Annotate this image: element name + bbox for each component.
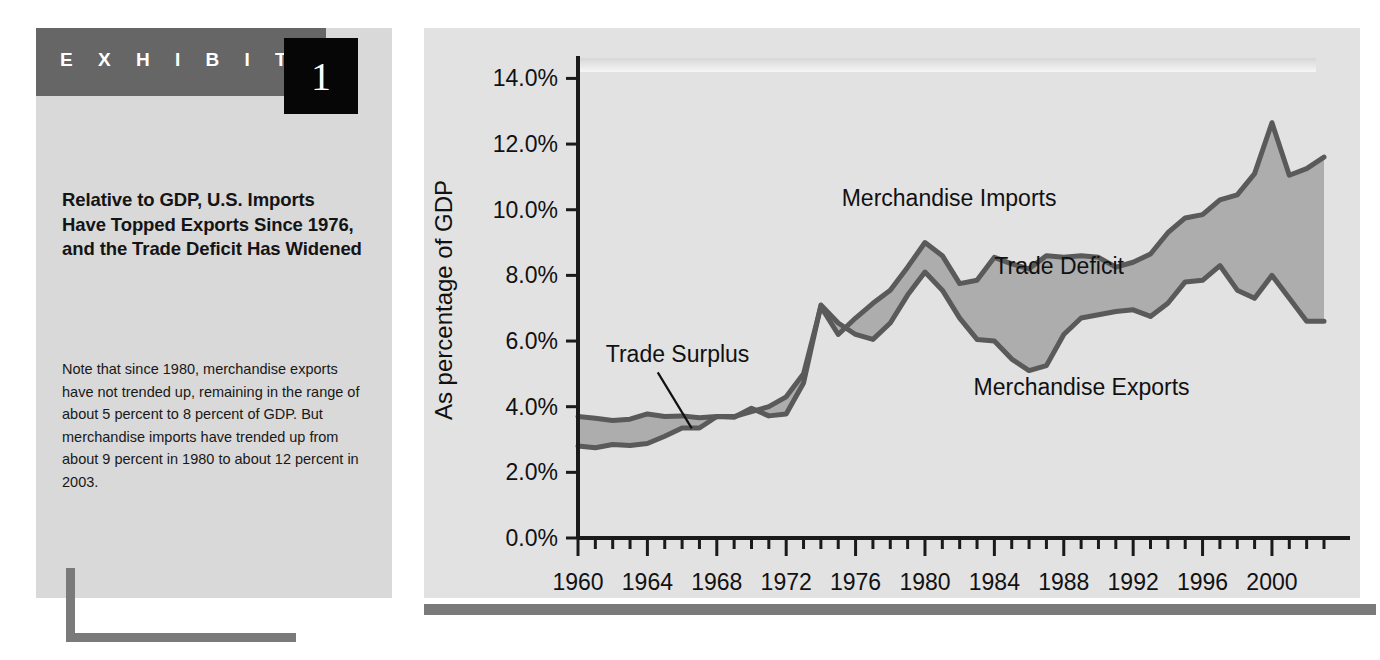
y-tick-label: 2.0% (506, 459, 558, 485)
y-tick-label: 12.0% (493, 131, 558, 157)
x-tick-label: 1968 (691, 569, 742, 595)
y-tick-label: 8.0% (506, 262, 558, 288)
x-tick-label: 1980 (899, 569, 950, 595)
chart-container: 0.0%2.0%4.0%6.0%8.0%10.0%12.0%14.0%19601… (404, 0, 1380, 660)
exhibit-note: Note that since 1980, merchandise export… (62, 358, 367, 494)
x-tick-label: 1996 (1177, 569, 1228, 595)
x-tick-label: 1964 (622, 569, 673, 595)
x-tick-label: 2000 (1246, 569, 1297, 595)
y-tick-label: 6.0% (506, 328, 558, 354)
x-tick-label: 1960 (552, 569, 603, 595)
exhibit-page: E X H I B I T 1 Relative to GDP, U.S. Im… (0, 0, 1380, 660)
exhibit-label: E X H I B I T (60, 49, 297, 71)
annotation-merchandise-imports: Merchandise Imports (842, 185, 1057, 211)
corner-rule-horizontal (66, 633, 296, 642)
exhibit-number: 1 (284, 38, 358, 114)
corner-rule-vertical (66, 568, 75, 642)
exhibit-headline: Relative to GDP, U.S. Imports Have Toppe… (62, 188, 362, 262)
y-tick-label: 10.0% (493, 197, 558, 223)
x-tick-label: 1972 (761, 569, 812, 595)
exhibit-sidebar: E X H I B I T 1 Relative to GDP, U.S. Im… (36, 28, 392, 608)
trade-area-chart: 0.0%2.0%4.0%6.0%8.0%10.0%12.0%14.0%19601… (404, 0, 1380, 660)
y-tick-label: 0.0% (506, 525, 558, 551)
x-tick-label: 1984 (969, 569, 1020, 595)
y-tick-label: 4.0% (506, 394, 558, 420)
trade-gap-band (578, 123, 1324, 448)
annotation-trade-deficit: Trade Deficit (994, 253, 1124, 279)
x-tick-label: 1976 (830, 569, 881, 595)
annotation-trade-surplus: Trade Surplus (606, 341, 750, 367)
y-tick-label: 14.0% (493, 65, 558, 91)
annotation-merchandise-exports: Merchandise Exports (974, 374, 1190, 400)
x-tick-label: 1992 (1108, 569, 1159, 595)
y-axis-title: As percentage of GDP (430, 180, 457, 420)
exhibit-number-box: 1 (284, 38, 358, 114)
x-tick-label: 1988 (1038, 569, 1089, 595)
